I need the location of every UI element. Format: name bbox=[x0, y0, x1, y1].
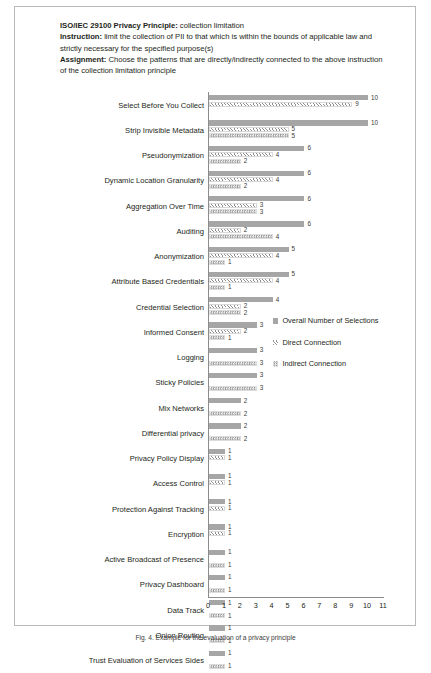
x-tick-label: 0 bbox=[206, 601, 210, 610]
category-label: Privacy Dashboard bbox=[140, 580, 204, 589]
category-label: Trust Evaluation of Services Sides bbox=[89, 656, 204, 665]
figure-header: ISO/IEC 29100 Privacy Principle: collect… bbox=[60, 20, 390, 76]
category-label: Credential Selection bbox=[136, 302, 204, 311]
x-tick-label: 4 bbox=[270, 601, 274, 610]
x-tick-label: 9 bbox=[349, 601, 353, 610]
legend-item-indirect: Indirect Connection bbox=[273, 360, 379, 368]
category-label: Pseudonymization bbox=[142, 151, 204, 160]
row-bars: 11 bbox=[209, 649, 400, 672]
bar-value-label: 1 bbox=[228, 663, 232, 669]
header-line-assignment: Assignment: Choose the patterns that are… bbox=[60, 54, 390, 77]
x-tick-label: 3 bbox=[254, 601, 258, 610]
x-axis-ticks: 01234567891011 bbox=[208, 601, 384, 615]
category-label: Encryption bbox=[168, 529, 204, 538]
chart-row: Trust Evaluation of Services Sides11 bbox=[15, 648, 400, 673]
bar-overall bbox=[209, 651, 225, 656]
instruction-text: limit the collection of PII to that whic… bbox=[60, 32, 372, 52]
assignment-label: Assignment: bbox=[60, 55, 106, 64]
category-label: Aggregation Over Time bbox=[126, 201, 204, 210]
assignment-text: Choose the patterns that are directly/in… bbox=[60, 55, 382, 75]
x-tick-label: 5 bbox=[286, 601, 290, 610]
x-tick-label: 7 bbox=[317, 601, 321, 610]
category-label: Access Control bbox=[153, 479, 204, 488]
x-tick-label: 1 bbox=[222, 601, 226, 610]
x-tick-label: 10 bbox=[363, 601, 371, 610]
principle-label: ISO/IEC 29100 Privacy Principle: bbox=[60, 21, 178, 30]
legend-label: Indirect Connection bbox=[282, 360, 346, 368]
header-line-instruction: Instruction: limit the collection of PII… bbox=[60, 31, 390, 54]
category-label: Protection Against Tracking bbox=[112, 504, 204, 513]
bar-value-label: 1 bbox=[228, 650, 232, 656]
category-label: Anonymization bbox=[154, 252, 204, 261]
bar-chart: Select Before You Collect109Strip Invisi… bbox=[15, 92, 400, 622]
legend-item-direct: Direct Connection bbox=[273, 339, 379, 347]
legend-label: Overall Number of Selections bbox=[282, 317, 378, 325]
category-label: Data Track bbox=[167, 605, 204, 614]
x-axis-line bbox=[208, 597, 384, 598]
category-label: Privacy Policy Display bbox=[130, 454, 204, 463]
x-tick-label: 6 bbox=[301, 601, 305, 610]
bar-overall bbox=[209, 625, 225, 630]
category-label: Differential privacy bbox=[142, 428, 204, 437]
legend-swatch-indirect-icon bbox=[273, 361, 278, 366]
category-label: Sticky Policies bbox=[155, 378, 204, 387]
principle-text: collection limitation bbox=[178, 21, 244, 30]
legend-item-overall: Overall Number of Selections bbox=[273, 317, 379, 325]
legend-label: Direct Connection bbox=[282, 339, 341, 347]
x-tick-label: 11 bbox=[379, 601, 387, 610]
category-label: Select Before You Collect bbox=[118, 100, 204, 109]
category-label: Strip Invisible Metadata bbox=[125, 125, 204, 134]
category-label: Informed Consent bbox=[144, 327, 204, 336]
bar-indirect bbox=[209, 664, 225, 669]
category-label: Auditing bbox=[177, 226, 204, 235]
category-label: Mix Networks bbox=[158, 403, 204, 412]
legend-swatch-direct-icon bbox=[273, 340, 278, 345]
x-tick-label: 2 bbox=[238, 601, 242, 610]
instruction-label: Instruction: bbox=[60, 32, 102, 41]
category-label: Logging bbox=[177, 353, 204, 362]
category-label: Attribute Based Credentials bbox=[112, 277, 204, 286]
bar-value-label: 1 bbox=[228, 625, 232, 631]
chart-legend: Overall Number of SelectionsDirect Conne… bbox=[273, 317, 379, 382]
category-label: Dynamic Location Granularity bbox=[104, 176, 204, 185]
header-line-principle: ISO/IEC 29100 Privacy Principle: collect… bbox=[60, 20, 390, 31]
legend-swatch-overall-icon bbox=[273, 318, 278, 323]
category-label: Active Broadcast of Presence bbox=[104, 555, 204, 564]
figure-caption: Fig. 4. Example for the evaluation of a … bbox=[0, 634, 431, 641]
x-tick-label: 8 bbox=[333, 601, 337, 610]
